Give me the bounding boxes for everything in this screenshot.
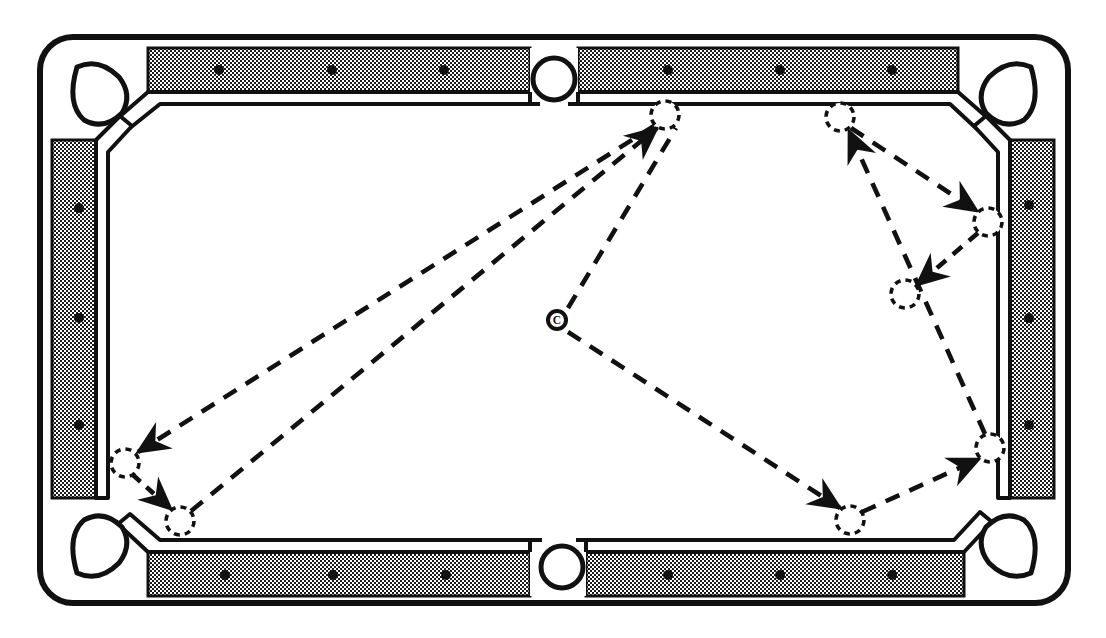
diamond-top-6 bbox=[887, 65, 897, 75]
object-ball-right-mid[interactable] bbox=[891, 280, 919, 308]
diamond-right-3 bbox=[1024, 420, 1034, 430]
object-ball-top-left-rail[interactable] bbox=[651, 101, 679, 129]
cue-ball-label: C bbox=[553, 314, 561, 326]
rail-band-top-left bbox=[148, 48, 530, 92]
diamond-top-4 bbox=[663, 65, 673, 75]
object-ball-bottom-mid[interactable] bbox=[836, 506, 864, 534]
rail-band-bottom-left bbox=[148, 552, 530, 596]
diamond-left-1 bbox=[74, 203, 84, 213]
object-ball-top-right-rail[interactable] bbox=[826, 103, 854, 131]
diamond-bottom-4 bbox=[663, 570, 673, 580]
rail-band-left bbox=[52, 140, 96, 498]
side-pocket-bottom-mouth bbox=[541, 546, 583, 588]
table-canvas: C bbox=[0, 0, 1106, 638]
pool-table-diagram: C bbox=[0, 0, 1106, 638]
diamond-bottom-6 bbox=[887, 570, 897, 580]
cue-ball[interactable]: C bbox=[546, 309, 568, 331]
diamond-left-3 bbox=[74, 420, 84, 430]
diamond-bottom-1 bbox=[220, 570, 230, 580]
diamond-top-3 bbox=[439, 65, 449, 75]
side-pocket-top-mouth bbox=[533, 58, 575, 100]
rail-band-top-right bbox=[578, 48, 958, 92]
diamond-right-1 bbox=[1024, 200, 1034, 210]
diamond-bottom-3 bbox=[441, 570, 451, 580]
diamond-top-5 bbox=[775, 65, 785, 75]
object-ball-lower-left-lower[interactable] bbox=[166, 507, 194, 535]
diamond-bottom-5 bbox=[775, 570, 785, 580]
diamond-right-2 bbox=[1024, 313, 1034, 323]
diamond-top-1 bbox=[214, 65, 224, 75]
diamond-left-2 bbox=[74, 313, 84, 323]
object-ball-bottom-right-rail[interactable] bbox=[976, 434, 1004, 462]
object-ball-right-rail[interactable] bbox=[974, 208, 1002, 236]
rail-band-bottom-right bbox=[586, 552, 964, 596]
object-ball-lower-left-upper[interactable] bbox=[111, 449, 139, 477]
diamond-bottom-2 bbox=[328, 570, 338, 580]
diamond-top-2 bbox=[327, 65, 337, 75]
